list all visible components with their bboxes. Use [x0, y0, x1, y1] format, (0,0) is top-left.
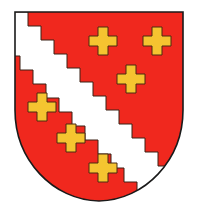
- coat-of-arms: [0, 0, 198, 219]
